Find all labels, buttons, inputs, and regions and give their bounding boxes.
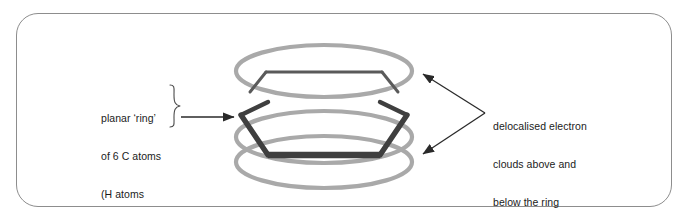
- right-annotation-line-2: clouds above and: [493, 158, 587, 171]
- left-annotation-line-1: planar ‘ring’: [101, 112, 161, 125]
- arrow-to-lower-cloud: [423, 113, 485, 154]
- delocalised-electron-annotation-text: delocalised electron clouds above and be…: [493, 95, 587, 220]
- planar-ring-annotation-text: planar ‘ring’ of 6 C atoms (H atoms not …: [101, 87, 161, 220]
- right-annotation-line-3: below the ring: [493, 196, 587, 209]
- left-annotation-line-3: (H atoms: [101, 188, 161, 201]
- right-annotation-line-1: delocalised electron: [493, 120, 587, 133]
- ring-left-upper-edge: [241, 102, 268, 115]
- arrow-to-upper-cloud: [423, 74, 485, 113]
- left-annotation-line-2: of 6 C atoms: [101, 150, 161, 163]
- ring-right-upper-edge: [380, 102, 407, 115]
- left-annotation-brace: [170, 85, 180, 127]
- diagram-page: planar ‘ring’ of 6 C atoms (H atoms not …: [0, 0, 690, 220]
